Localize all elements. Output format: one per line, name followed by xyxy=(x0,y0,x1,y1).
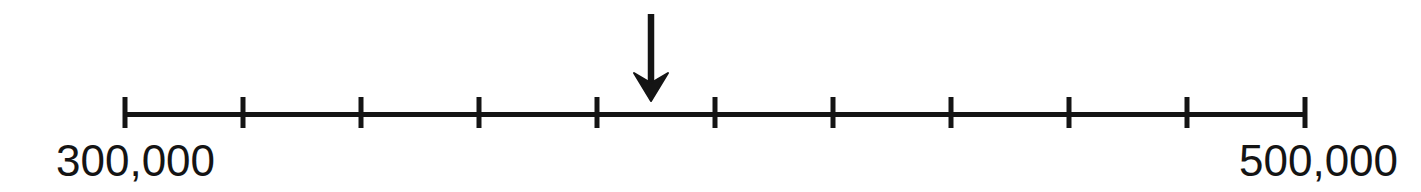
down-arrow-icon xyxy=(634,14,668,101)
left-endpoint-label: 300,000 xyxy=(56,139,215,183)
number-line-figure: 300,000 500,000 xyxy=(0,0,1421,192)
right-endpoint-label: 500,000 xyxy=(1239,139,1398,183)
